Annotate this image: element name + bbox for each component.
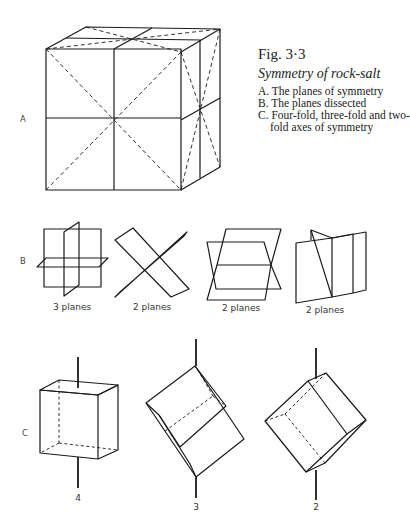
section-label-b: B — [20, 256, 26, 266]
two-planes-folded-diagram — [207, 229, 281, 300]
section-label-a: A — [20, 114, 26, 124]
axis-label-four-fold: 4 — [43, 493, 113, 503]
caption-item-a: A. The planes of symmetry — [258, 85, 410, 97]
figure-title: Symmetry of rock-salt — [258, 65, 410, 83]
four-fold-axis-cube — [40, 357, 118, 488]
subfigure-label-two-planes-folded: 2 planes — [206, 303, 276, 313]
axis-label-two-fold: 2 — [281, 502, 351, 512]
two-planes-vertical-diagram — [296, 230, 366, 303]
section-label-c: C — [22, 428, 28, 438]
two-fold-axis-hidden-edges — [265, 373, 326, 463]
subfigure-label-three-planes: 3 planes — [37, 302, 107, 312]
caption-item-c: C. Four-fold, three-fold and two-fold ax… — [258, 109, 410, 133]
cube-diagonal-planes — [46, 27, 220, 190]
two-fold-axis-cube — [265, 348, 366, 500]
two-planes-x-diagram — [115, 228, 189, 297]
figure-number: Fig. 3·3 — [258, 45, 410, 63]
figure-caption: Fig. 3·3 Symmetry of rock-salt A. The pl… — [258, 45, 410, 133]
three-planes-diagram — [37, 222, 108, 296]
cube-planes-of-symmetry — [46, 27, 220, 190]
three-fold-axis-cube — [146, 339, 244, 498]
caption-item-b: B. The planes dissected — [258, 97, 410, 109]
three-fold-axis-hidden-edges — [165, 370, 226, 431]
subfigure-label-two-planes-vertical: 2 planes — [290, 305, 360, 315]
axis-label-three-fold: 3 — [161, 502, 231, 512]
subfigure-label-two-planes-x: 2 planes — [117, 302, 187, 312]
